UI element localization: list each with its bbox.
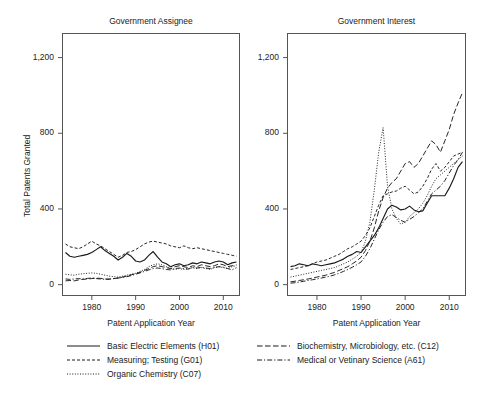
- ytick-label-1-3: 1,200: [223, 52, 279, 62]
- xtick-label-0-3: 2010: [203, 302, 243, 312]
- series-line-dashdot: [291, 152, 463, 283]
- y-axis-label: Total Patents Granted: [22, 134, 32, 216]
- series-line-solid: [66, 247, 237, 267]
- x-axis-label-0: Patent Application Year: [62, 318, 240, 328]
- series-line-longdash: [66, 264, 237, 281]
- legend-item-h01[interactable]: Basic Electric Elements (H01): [67, 340, 219, 352]
- legend-item-c12[interactable]: Biochemistry, Microbiology, etc. (C12): [257, 340, 439, 352]
- legend-label-c12: Biochemistry, Microbiology, etc. (C12): [297, 341, 439, 351]
- series-line-solid: [291, 162, 463, 267]
- ytick-label-1-0: 0: [223, 279, 279, 289]
- legend-line-swatch-dotted: [67, 369, 100, 379]
- legend-item-c07[interactable]: Organic Chemistry (C07): [67, 368, 201, 380]
- series-line-longdash: [291, 93, 463, 282]
- legend-line-swatch-dashdot: [257, 355, 290, 365]
- ytick-label-1-1: 400: [223, 203, 279, 213]
- legend-label-g01: Measuring; Testing (G01): [107, 355, 202, 365]
- legend-label-a61: Medical or Vetinary Science (A61): [297, 355, 425, 365]
- legend-line-swatch-dashed: [67, 355, 100, 365]
- figure-root: Government Assignee04008001,200198019902…: [0, 0, 496, 400]
- legend-line-swatch-longdash: [257, 341, 290, 351]
- series-line-dashed: [291, 152, 463, 269]
- xtick-label-1-2: 2000: [385, 302, 425, 312]
- legend-item-g01[interactable]: Measuring; Testing (G01): [67, 354, 202, 366]
- xtick-label-1-1: 1990: [341, 302, 381, 312]
- panel-title-0: Government Assignee: [62, 16, 240, 26]
- legend-item-a61[interactable]: Medical or Vetinary Science (A61): [257, 354, 425, 366]
- x-axis-label-1: Patent Application Year: [287, 318, 466, 328]
- xtick-label-1-0: 1980: [297, 302, 337, 312]
- xtick-label-0-0: 1980: [72, 302, 112, 312]
- legend-label-c07: Organic Chemistry (C07): [107, 369, 201, 379]
- ytick-label-1-2: 800: [223, 127, 279, 137]
- legend-label-h01: Basic Electric Elements (H01): [107, 341, 219, 351]
- legend-line-swatch-solid: [67, 341, 100, 351]
- ytick-label-0-0: 0: [0, 279, 54, 289]
- series-line-dashdot: [66, 267, 237, 280]
- xtick-label-0-2: 2000: [159, 302, 199, 312]
- series-line-dashed: [66, 241, 237, 257]
- series-line-dotted: [66, 264, 237, 277]
- panel-title-1: Government Interest: [287, 16, 466, 26]
- series-line-dotted: [291, 128, 463, 277]
- xtick-label-1-3: 2010: [429, 302, 469, 312]
- xtick-label-0-1: 1990: [116, 302, 156, 312]
- ytick-label-0-3: 1,200: [0, 52, 54, 62]
